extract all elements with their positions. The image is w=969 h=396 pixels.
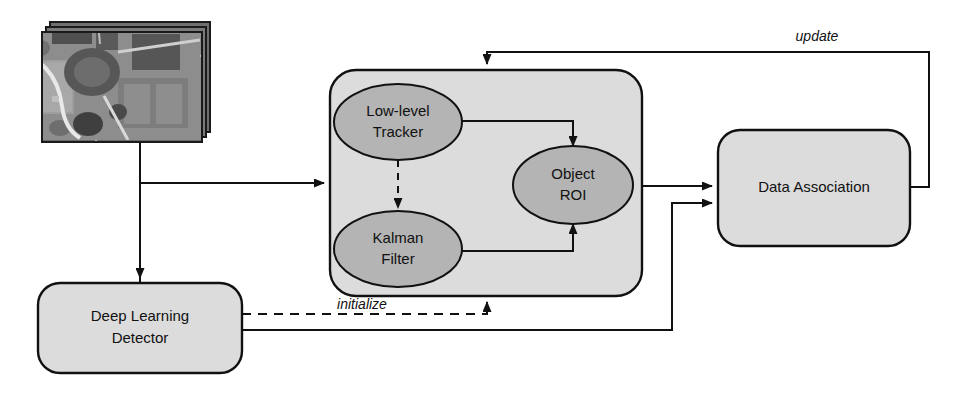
node-deep-learning-detector[interactable]: Deep Learning Detector (38, 283, 242, 373)
update-edge-label: update (796, 28, 839, 44)
low-level-tracker-label-line2: Tracker (373, 123, 423, 140)
pipeline-diagram: Low-level Tracker Kalman Filter Object R… (0, 0, 969, 396)
low-level-tracker-label-line1: Low-level (366, 102, 429, 119)
deep-learning-detector-label-line2: Detector (112, 329, 169, 346)
diagram-canvas: Low-level Tracker Kalman Filter Object R… (0, 0, 969, 396)
node-object-roi[interactable]: Object ROI (513, 146, 633, 224)
kalman-filter-label-line2: Filter (381, 250, 414, 267)
node-data-association[interactable]: Data Association (718, 130, 910, 246)
object-roi-label-line2: ROI (560, 186, 587, 203)
data-association-label: Data Association (758, 178, 870, 195)
initialize-edge-label: initialize (337, 296, 387, 312)
satellite-frame-stack (42, 22, 210, 142)
object-roi-label-line1: Object (551, 165, 595, 182)
kalman-filter-label-line1: Kalman (373, 229, 424, 246)
edge-detector-initialize-tracking-module: initialize (242, 296, 487, 314)
node-low-level-tracker[interactable]: Low-level Tracker (334, 84, 462, 160)
node-kalman-filter[interactable]: Kalman Filter (334, 211, 462, 287)
deep-learning-detector-label-line1: Deep Learning (91, 307, 189, 324)
